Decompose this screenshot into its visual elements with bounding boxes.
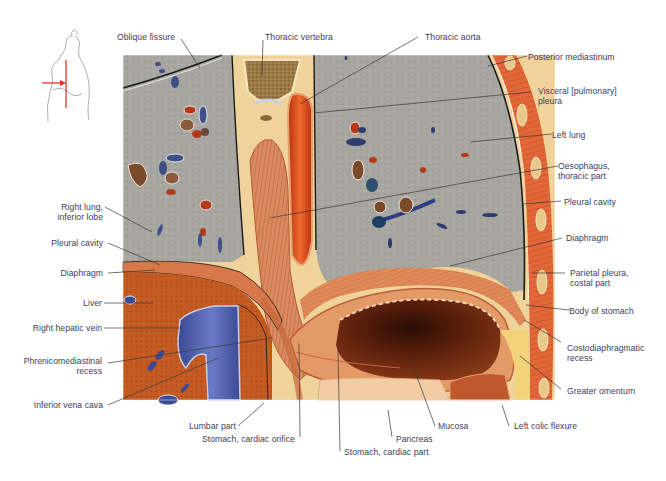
label-liver: Liver [83,298,102,308]
label-pleural-cavity-left: Pleural cavity [51,238,103,248]
label-pancreas: Pancreas [396,434,433,444]
label-right-lung-line1: Right lung, [57,202,103,212]
label-parietal-pleura-line2: costal part [570,278,629,288]
label-oesophagus-line2: thoracic part [558,171,610,181]
anatomy-figure: Oblique fissure Thoracic vertebra Thorac… [0,0,666,481]
label-pleural-cavity-right: Pleural cavity [564,197,616,207]
label-phrenicomediastinal-line2: recess [24,366,102,376]
label-right-hepatic-vein: Right hepatic vein [33,323,102,333]
label-left-colic-flexure: Left colic flexure [514,421,577,431]
pancreas-shape [318,378,450,400]
label-inferior-vena-cava: Inferior vena cava [34,400,103,410]
label-greater-omentum: Greater omentum [567,386,635,396]
label-oesophagus-line1: Oesophagus, [558,161,610,171]
label-diaphragm-left: Diaphragm [61,268,103,278]
label-visceral-pleura-line2: pleura [538,96,617,106]
label-costodiaphragmatic-line2: recess [567,353,644,363]
left-lung-shape [314,55,525,292]
label-parietal-pleura: Parietal pleura, costal part [570,268,629,288]
aorta-shape [288,94,312,265]
label-costodiaphragmatic-recess: Costodiaphragmatic recess [567,343,644,363]
label-thoracic-aorta: Thoracic aorta [425,32,481,42]
label-parietal-pleura-line1: Parietal pleura, [570,268,629,278]
stomach-lumen-shape [336,299,500,380]
label-lumbar-part: Lumbar part [189,421,236,431]
label-right-lung-inferior-lobe: Right lung, inferior lobe [57,202,103,222]
view-arrow-icon [42,80,66,86]
label-right-lung-line2: inferior lobe [57,212,103,222]
label-stomach-cardiac-orifice: Stomach, cardiac orifice [202,434,295,444]
label-phrenicomediastinal-recess: Phrenicomediastinal recess [24,356,102,376]
label-oesophagus-thoracic: Oesophagus, thoracic part [558,161,610,181]
label-body-of-stomach: Body of stomach [569,306,634,316]
label-posterior-mediastinum: Posterior mediastinum [528,52,615,62]
label-oblique-fissure: Oblique fissure [117,32,175,42]
label-left-lung: Left lung [552,130,585,140]
label-visceral-pleura-line1: Visceral [pulmonary] [538,86,617,96]
section-illustration [123,55,555,405]
label-diaphragm-right: Diaphragm [566,233,608,243]
label-phrenicomediastinal-line1: Phrenicomediastinal [24,356,102,366]
label-costodiaphragmatic-line1: Costodiaphragmatic [567,343,644,353]
orientation-inset [47,30,89,122]
label-mucosa: Mucosa [438,421,468,431]
label-visceral-pleura: Visceral [pulmonary] pleura [538,86,617,106]
label-thoracic-vertebra: Thoracic vertebra [265,32,333,42]
label-stomach-cardiac-part: Stomach, cardiac part [344,447,429,457]
